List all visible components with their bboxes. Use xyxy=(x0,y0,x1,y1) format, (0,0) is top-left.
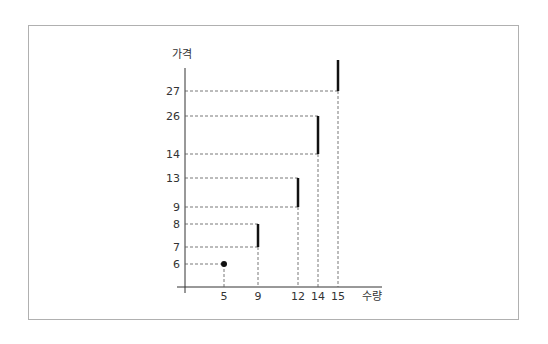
x-tick-label: 15 xyxy=(331,290,345,303)
y-tick-label: 7 xyxy=(173,241,180,254)
chart: 가격수량67891314262759121415 xyxy=(0,0,548,344)
y-tick-label: 14 xyxy=(166,148,180,161)
y-tick-label: 26 xyxy=(166,110,180,123)
y-tick-label: 9 xyxy=(173,201,180,214)
data-point xyxy=(221,261,227,267)
x-tick-label: 14 xyxy=(311,290,325,303)
y-tick-label: 27 xyxy=(166,85,180,98)
x-tick-label: 9 xyxy=(255,290,262,303)
y-tick-label: 8 xyxy=(173,218,180,231)
x-axis-label: 수량 xyxy=(362,290,382,303)
x-tick-label: 12 xyxy=(291,290,305,303)
y-tick-label: 6 xyxy=(173,258,180,271)
y-axis-label: 가격 xyxy=(172,48,192,61)
y-tick-label: 13 xyxy=(166,172,180,185)
x-tick-label: 5 xyxy=(221,290,228,303)
